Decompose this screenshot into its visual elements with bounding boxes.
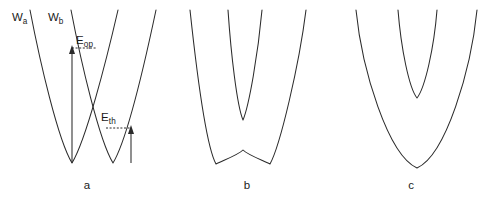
- panel-label-b: b: [242, 180, 252, 192]
- label-w-a: Wa: [12, 12, 28, 24]
- label-w-a-subscript: a: [23, 17, 28, 26]
- panel-a-group: [30, 10, 156, 163]
- panel-label-c: c: [406, 180, 416, 192]
- potential-energy-diagram: Wa Wb Eop Eth a b c: [0, 0, 492, 204]
- panel-b-group: [190, 10, 306, 164]
- panel-c-group: [356, 10, 477, 168]
- curve-w-b: [71, 10, 156, 163]
- label-w-a-base: W: [12, 11, 23, 23]
- label-e-op-base: E: [76, 34, 84, 46]
- curve-w-a: [30, 10, 118, 163]
- label-e-op-subscript: op: [84, 40, 94, 49]
- e-op-arrowhead: [69, 45, 75, 54]
- label-w-b: Wb: [48, 12, 64, 24]
- panel-label-a: a: [82, 180, 92, 192]
- curve-b-inner-parabola: [228, 10, 262, 120]
- label-e-th: Eth: [101, 112, 116, 124]
- label-e-op: Eop: [76, 35, 93, 47]
- curve-b-outer-double-well: [190, 10, 306, 164]
- curve-c-outer-parabola: [356, 10, 477, 168]
- label-e-th-subscript: th: [109, 117, 116, 126]
- e-th-arrowhead: [128, 125, 134, 134]
- label-e-th-base: E: [101, 111, 109, 123]
- curve-c-inner-parabola: [398, 10, 437, 98]
- label-w-b-base: W: [48, 11, 59, 23]
- label-w-b-subscript: b: [59, 17, 64, 26]
- diagram-canvas: [0, 0, 492, 204]
